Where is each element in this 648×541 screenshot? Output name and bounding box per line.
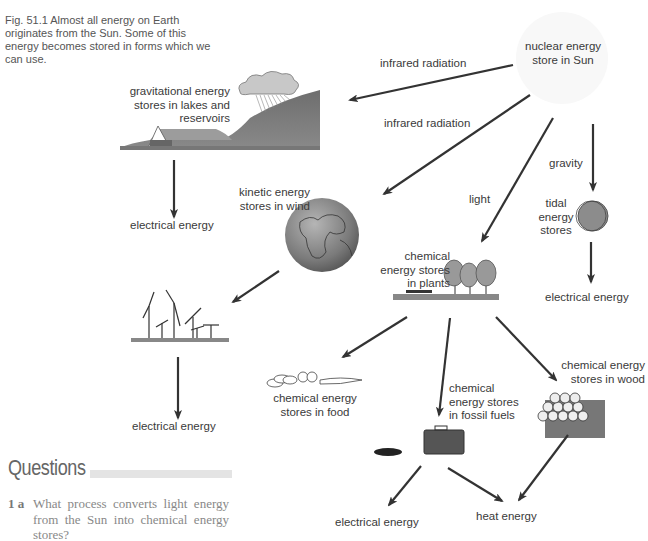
node-elec-lakes: electrical energy xyxy=(130,219,214,233)
node-elec-tidal: electrical energy xyxy=(545,291,629,305)
arrow-label-ir1: infrared radiation xyxy=(380,57,466,71)
node-heat: heat energy xyxy=(476,510,537,524)
node-elec-wind: electrical energy xyxy=(132,420,216,434)
arrow-label-ir2: infrared radiation xyxy=(384,117,470,131)
arrow-label-gravity: gravity xyxy=(549,157,583,171)
arrow-plants-to-food xyxy=(343,317,407,357)
node-wind: kinetic energy stores in wind xyxy=(218,186,310,213)
figure-caption: Fig. 51.1 Almost all energy on Earth ori… xyxy=(5,14,220,66)
food-icon xyxy=(267,372,362,387)
question-text: What process converts light energy from … xyxy=(33,496,229,541)
fossil-fuels-icon xyxy=(374,426,464,456)
node-sun: nuclear energy store in Sun xyxy=(525,40,601,67)
energy-flow-diagram xyxy=(0,0,648,541)
node-tidal: tidal energy stores xyxy=(534,197,578,238)
node-fossil: chemical energy stores in fossil fuels xyxy=(449,382,519,423)
moon-icon xyxy=(578,201,608,231)
node-elec-fossil: electrical energy xyxy=(335,516,419,530)
wind-turbines-icon xyxy=(131,290,229,342)
arrow-label-light: light xyxy=(469,193,490,207)
logs-icon xyxy=(538,393,605,438)
node-plants: chemical energy stores in plants xyxy=(370,250,450,291)
arrow-fossil-to-elec xyxy=(389,466,421,505)
node-food: chemical energy stores in food xyxy=(265,392,365,419)
node-lakes: gravitational energy stores in lakes and… xyxy=(120,85,230,126)
arrow-fossil-to-heat xyxy=(448,468,502,501)
arrow-sun-to-wind xyxy=(384,95,530,194)
questions-heading: Questions xyxy=(8,455,86,481)
arrow-wind-to-turbines xyxy=(233,271,279,302)
question-number: 1 a xyxy=(8,496,24,512)
arrow-wood-to-heat xyxy=(519,435,568,500)
node-wood: chemical energy stores in wood xyxy=(540,359,645,386)
questions-heading-rule xyxy=(90,470,232,478)
